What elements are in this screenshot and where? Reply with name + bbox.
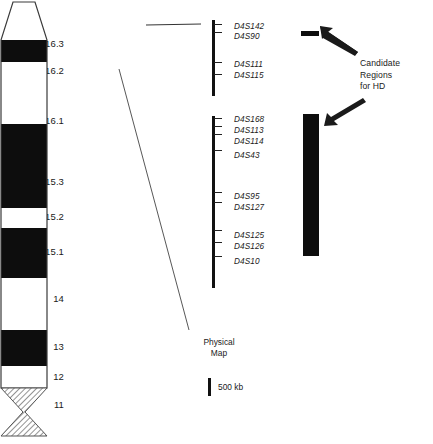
physical-map-caption-line1: Physical — [196, 337, 242, 348]
physical-map-caption-line2: Map — [196, 348, 242, 359]
candidate-annotation-line1: Candidate — [360, 58, 400, 70]
marker-label-D4S113: D4S113 — [234, 126, 264, 135]
marker-label-D4S10: D4S10 — [234, 257, 260, 266]
marker-label-D4S125: D4S125 — [234, 231, 264, 240]
connector-diagonal-upper — [119, 69, 189, 330]
map-tick — [214, 134, 222, 135]
chromosome-4p-figure: 4p 16.316.216.115.315.215.114131211 D4S — [0, 0, 433, 444]
candidate-annotation-line3: for HD — [360, 81, 400, 93]
map-tick — [214, 192, 222, 193]
map-tick — [214, 62, 222, 63]
candidate-annotation-line2: Regions — [360, 70, 400, 82]
marker-label-D4S115: D4S115 — [234, 71, 264, 80]
physical-map-caption: Physical Map — [196, 337, 242, 358]
marker-label-D4S142: D4S142 — [234, 22, 264, 31]
map-tick — [214, 24, 222, 25]
map-tick — [214, 256, 222, 257]
marker-label-D4S43: D4S43 — [234, 151, 260, 160]
marker-label-D4S111: D4S111 — [234, 60, 263, 69]
scale-bar-glyph — [208, 378, 211, 396]
candidate-bar-lower — [303, 114, 319, 256]
map-tick — [214, 118, 222, 119]
arrow-lower-icon — [322, 100, 368, 130]
marker-label-D4S127: D4S127 — [234, 203, 264, 212]
map-tick — [214, 230, 222, 231]
arrow-upper-icon — [318, 26, 360, 56]
map-tick — [214, 32, 222, 33]
map-tick — [214, 242, 222, 243]
candidate-bar-upper — [301, 31, 319, 36]
map-tick — [214, 126, 222, 127]
map-tick — [214, 202, 222, 203]
marker-label-D4S114: D4S114 — [234, 137, 264, 146]
marker-label-D4S90: D4S90 — [234, 32, 260, 41]
connector-diagonal-spacer — [123, 70, 193, 332]
marker-label-D4S95: D4S95 — [234, 192, 260, 201]
scale-bar-label: 500 kb — [218, 382, 243, 392]
marker-label-D4S168: D4S168 — [234, 115, 264, 124]
connector-top-horizontal — [146, 24, 201, 25]
map-tick — [214, 74, 222, 75]
marker-label-D4S126: D4S126 — [234, 242, 264, 251]
map-tick — [214, 150, 222, 151]
candidate-regions-annotation: Candidate Regions for HD — [360, 58, 400, 93]
